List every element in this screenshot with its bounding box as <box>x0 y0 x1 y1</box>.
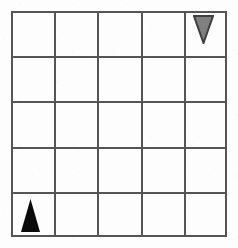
grid-cell-r3c1[interactable] <box>11 101 54 146</box>
grid-cell-r2c2[interactable] <box>54 56 97 101</box>
grid-board[interactable] <box>11 11 227 237</box>
grid-cell-r2c5[interactable] <box>184 56 227 101</box>
grid-line-horizontal-3 <box>11 147 227 149</box>
grid-cell-r4c2[interactable] <box>54 147 97 192</box>
grid-line-vertical-5 <box>225 11 227 237</box>
grid-cell-r3c2[interactable] <box>54 101 97 146</box>
grid-cell-r5c4[interactable] <box>141 192 184 237</box>
grid-cell-r4c1[interactable] <box>11 147 54 192</box>
grid-cell-r2c1[interactable] <box>11 56 54 101</box>
grid-line-vertical-3 <box>141 11 143 237</box>
grid-cell-r1c1[interactable] <box>11 11 54 56</box>
grid-cell-r5c5[interactable] <box>184 192 227 237</box>
grid-line-horizontal-4 <box>11 192 227 194</box>
grid-cell-r4c3[interactable] <box>97 147 140 192</box>
grid-cell-r2c4[interactable] <box>141 56 184 101</box>
grid-line-vertical-1 <box>54 11 56 237</box>
grid-cell-r2c3[interactable] <box>97 56 140 101</box>
grid-cell-r4c4[interactable] <box>141 147 184 192</box>
grid-cell-r4c5[interactable] <box>184 147 227 192</box>
grid-line-horizontal-5 <box>11 235 227 237</box>
grid-line-vertical-2 <box>97 11 99 237</box>
grid-cell-r1c4[interactable] <box>141 11 184 56</box>
grid-cell-r1c2[interactable] <box>54 11 97 56</box>
grid-line-horizontal-1 <box>11 56 227 58</box>
grid-cell-r3c5[interactable] <box>184 101 227 146</box>
grid-line-horizontal-2 <box>11 101 227 103</box>
grid-line-vertical-4 <box>184 11 186 237</box>
grid-line-horizontal-0 <box>11 11 227 13</box>
grid-cell-r1c3[interactable] <box>97 11 140 56</box>
grid-cell-r5c3[interactable] <box>97 192 140 237</box>
grid-line-vertical-0 <box>11 11 13 237</box>
grid-cell-r1c5[interactable] <box>184 11 227 56</box>
grid-cell-r5c1[interactable] <box>11 192 54 237</box>
grid-cell-r3c3[interactable] <box>97 101 140 146</box>
grid-cell-r3c4[interactable] <box>141 101 184 146</box>
grid-cell-r5c2[interactable] <box>54 192 97 237</box>
grid-puzzle-canvas <box>0 0 238 248</box>
